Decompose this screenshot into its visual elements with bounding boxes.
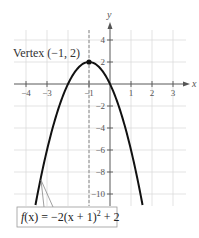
x-axis-arrow-icon [183,82,190,87]
function-label-body: (x) = −2(x + 1) [24,210,96,224]
parabola-chart: x y −4−3−112342−2−4−6−8−10 Vertex (−1, 2… [0,0,199,238]
y-axis-label: y [106,9,112,20]
x-tick-label: −1 [84,88,94,98]
function-label: f(x) = −2(x + 1)2 + 2 [21,209,119,224]
y-tick-label: −4 [95,123,105,133]
x-tick-label: 1 [129,88,134,98]
y-axis-arrow-icon [108,22,113,29]
x-tick-label: −4 [21,88,31,98]
x-axis-label: x [191,78,197,89]
y-tick-label: 2 [101,57,106,67]
y-tick-label: 4 [101,35,106,45]
x-tick-label: −3 [42,88,52,98]
y-tick-label: −2 [95,101,105,111]
function-label-suffix: + 2 [101,210,120,224]
y-tick-label: −10 [91,189,106,199]
vertex-point [86,59,91,64]
x-tick-label: 3 [171,88,176,98]
y-tick-label: −8 [95,167,105,177]
vertex-label: Vertex (−1, 2) [13,46,80,60]
x-tick-label: 2 [150,88,155,98]
y-tick-label: −6 [95,145,105,155]
